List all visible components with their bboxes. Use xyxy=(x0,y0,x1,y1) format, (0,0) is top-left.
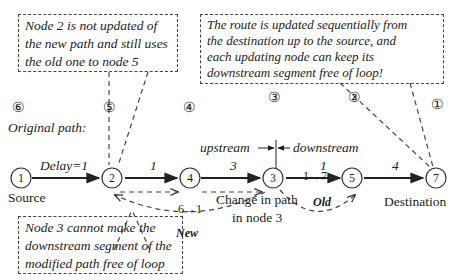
note-line: The route is updated sequentially from xyxy=(207,17,437,33)
svg-text:2: 2 xyxy=(109,171,115,185)
change-caption-line2: in node 3 xyxy=(232,210,282,226)
note-line: the destination up to the source, and xyxy=(207,33,437,49)
new-label: New xyxy=(176,226,198,241)
step-label: ④ xyxy=(183,99,196,116)
note-node3-loop: Node 3 cannot make the downstream segmen… xyxy=(18,216,183,274)
step-label: ⑤ xyxy=(103,99,116,116)
new-change: 6→1 xyxy=(178,202,202,217)
edge-delay: 4 xyxy=(392,158,399,174)
downstream-label: downstream xyxy=(293,140,359,156)
svg-text:5: 5 xyxy=(349,171,355,185)
old-change: 1→7 xyxy=(303,169,327,184)
svg-text:7: 7 xyxy=(433,171,439,185)
note-line: downstream segment free of loop! xyxy=(207,65,437,81)
note-line: downstream segment of the xyxy=(25,237,176,255)
source-label: Source xyxy=(8,190,46,206)
note-line: Node 2 is not updated of xyxy=(25,17,171,35)
note-line: modified path free of loop xyxy=(25,255,176,273)
change-caption-line1: Change in path xyxy=(216,192,298,208)
step-label: ② xyxy=(348,89,361,106)
destination-label: Destination xyxy=(384,194,446,210)
note-line: each updating node can keep its xyxy=(207,49,437,65)
note-line: Node 3 cannot make the xyxy=(25,219,176,237)
original-path-label: Original path: xyxy=(8,120,86,136)
upstream-label: upstream xyxy=(200,140,250,156)
svg-text:4: 4 xyxy=(187,171,193,185)
edge-delay: 1 xyxy=(150,158,157,174)
note-node2-not-updated: Node 2 is not updated of the new path an… xyxy=(18,14,178,72)
old-label: Old xyxy=(313,195,331,210)
note-line: the old one to node 5 xyxy=(25,53,171,71)
svg-text:3: 3 xyxy=(270,171,276,185)
edge-delay: Delay=1 xyxy=(40,158,88,174)
note-line: the new path and still uses xyxy=(25,35,171,53)
step-label: ① xyxy=(431,96,444,113)
step-label: ③ xyxy=(268,89,281,106)
step-label: ⑥ xyxy=(12,99,25,116)
note-sequential-update: The route is updated sequentially from t… xyxy=(200,14,444,84)
svg-text:1: 1 xyxy=(18,171,24,185)
edge-delay: 3 xyxy=(230,158,237,174)
